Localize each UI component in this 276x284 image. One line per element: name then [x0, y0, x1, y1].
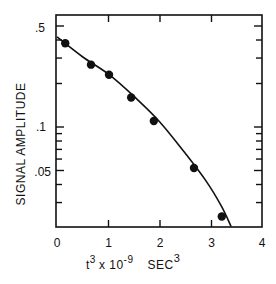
x-tick-label-1: 1 [105, 236, 112, 250]
data-point [218, 212, 226, 220]
x-tick-label-3: 3 [208, 236, 215, 250]
x-label-multiplier: x 10 [99, 258, 124, 272]
y-tick-label-0-05: .05 [34, 165, 51, 179]
data-point [150, 117, 158, 125]
x-axis-label: t3x 10-9SEC3 [86, 252, 180, 272]
data-point [87, 60, 95, 68]
y-axis-label: SIGNAL AMPLITUDE [14, 83, 28, 206]
x-label-unit: SEC [148, 258, 174, 272]
x-label-multiplier-exponent: -9 [124, 254, 134, 265]
fit-curve-line [57, 37, 231, 227]
chart: 0 1 2 3 4 .5 .1 .05 SIGNAL AMPLITUDE t3x… [0, 0, 276, 284]
x-tick-label-2: 2 [157, 236, 164, 250]
x-tick-label-0: 0 [54, 236, 61, 250]
data-point [61, 39, 69, 47]
x-tick-label-4: 4 [259, 236, 266, 250]
plot-area: 0 1 2 3 4 .5 .1 .05 SIGNAL AMPLITUDE t3x… [0, 0, 276, 284]
x-label-unit-exponent: 3 [174, 252, 181, 264]
data-point [190, 164, 198, 172]
fit-curve [57, 37, 231, 227]
x-label-t-exponent: 3 [90, 254, 96, 265]
y-tick-label-0-5: .5 [35, 21, 45, 35]
data-point [127, 93, 135, 101]
y-tick-label-0-1: .1 [36, 120, 46, 134]
data-point [105, 71, 113, 79]
data-points [61, 39, 226, 221]
